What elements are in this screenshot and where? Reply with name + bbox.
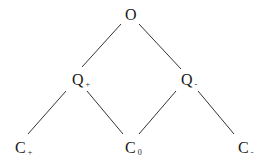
edge-qplus-czero [87, 91, 123, 134]
node-label: O [125, 6, 137, 23]
edge-qplus-cplus [28, 91, 66, 134]
node-q-plus: Q+ [72, 72, 90, 91]
node-label: Q [181, 71, 193, 88]
node-label: C [238, 139, 249, 156]
node-subscript: 0 [138, 148, 142, 157]
node-subscript: + [28, 148, 33, 157]
node-subscript: - [251, 148, 254, 157]
node-label: Q [72, 71, 84, 88]
node-label: C [125, 139, 136, 156]
edge-qminus-czero [139, 91, 176, 134]
node-subscript: + [86, 80, 91, 89]
edge-o-qminus [139, 24, 181, 69]
node-c-zero: C0 [125, 140, 142, 159]
node-subscript: - [195, 80, 198, 89]
edge-o-qplus [82, 24, 121, 67]
node-label: C [15, 139, 26, 156]
node-c-minus: C- [238, 140, 253, 159]
node-q-minus: Q- [181, 72, 197, 91]
node-c-plus: C+ [15, 140, 32, 159]
node-o: O [125, 7, 137, 23]
edge-qminus-cminus [198, 91, 234, 134]
